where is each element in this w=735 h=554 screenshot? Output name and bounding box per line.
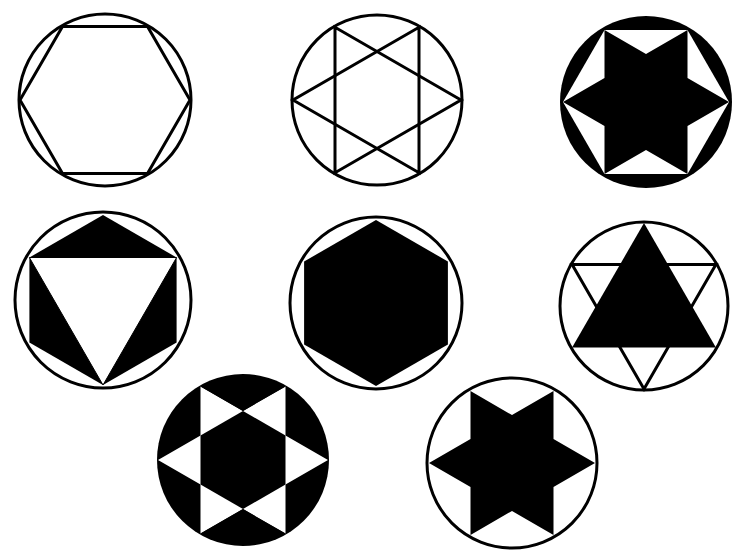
figure-canvas bbox=[0, 0, 735, 554]
black-star bbox=[429, 391, 595, 535]
inverted-triangle-black-wedges bbox=[15, 212, 191, 388]
black-hexagon bbox=[304, 220, 448, 386]
black-triangle-up bbox=[572, 223, 716, 348]
triangle-outline-right bbox=[335, 27, 461, 172]
triangle-outline-left bbox=[293, 27, 419, 172]
solid-star-black-segments bbox=[560, 16, 732, 188]
circle-outline bbox=[292, 15, 462, 185]
hexagon-outline bbox=[20, 26, 190, 173]
solid-triangle-in-star bbox=[560, 222, 728, 390]
outline-hexagon-in-circle bbox=[19, 14, 191, 186]
solid-disc-white-star-points bbox=[157, 374, 329, 546]
circle-outline bbox=[19, 14, 191, 186]
solid-hexagon-in-circle bbox=[290, 217, 462, 389]
outline-hexagram-in-circle bbox=[292, 15, 462, 185]
solid-star-in-circle bbox=[427, 378, 597, 548]
